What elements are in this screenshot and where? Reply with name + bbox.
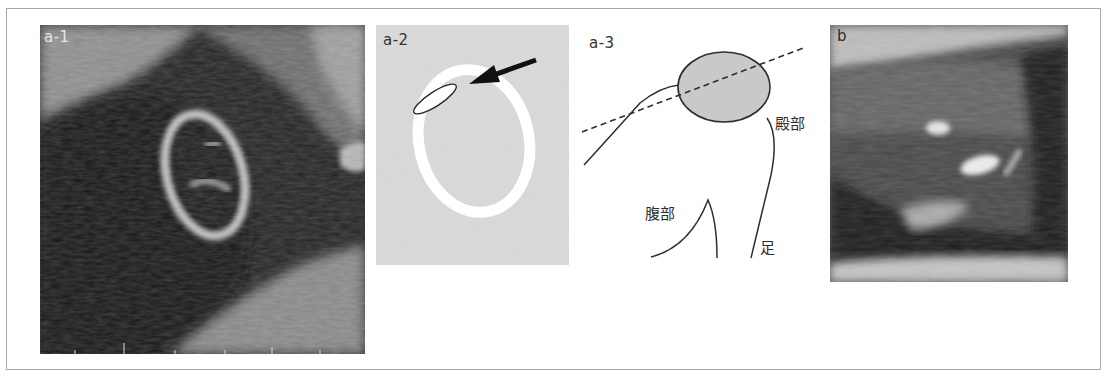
buttock-ellipse xyxy=(678,52,770,122)
back-curve xyxy=(584,85,679,165)
ring-diagram xyxy=(376,25,569,265)
ultrasound-image-a1 xyxy=(40,25,365,354)
panel-b-ultrasound: b xyxy=(830,25,1068,282)
panel-label-a1: a-1 xyxy=(44,30,70,45)
panel-label-a2: a-2 xyxy=(383,33,409,48)
leg-curve xyxy=(751,118,774,258)
ultrasound-image-b xyxy=(830,25,1068,282)
panel-a2-diagram: a-2 xyxy=(376,25,569,265)
panel-a3-diagram: a-3 殿部 腹部 足 xyxy=(575,25,820,270)
panel-label-a3: a-3 xyxy=(589,36,615,51)
panel-a1-ultrasound: a-1 xyxy=(40,25,365,354)
panel-label-b: b xyxy=(837,29,847,44)
label-leg: 足 xyxy=(760,241,775,256)
label-abdomen: 腹部 xyxy=(645,207,675,222)
fetal-position-diagram xyxy=(575,25,820,270)
label-buttock: 殿部 xyxy=(775,117,805,132)
